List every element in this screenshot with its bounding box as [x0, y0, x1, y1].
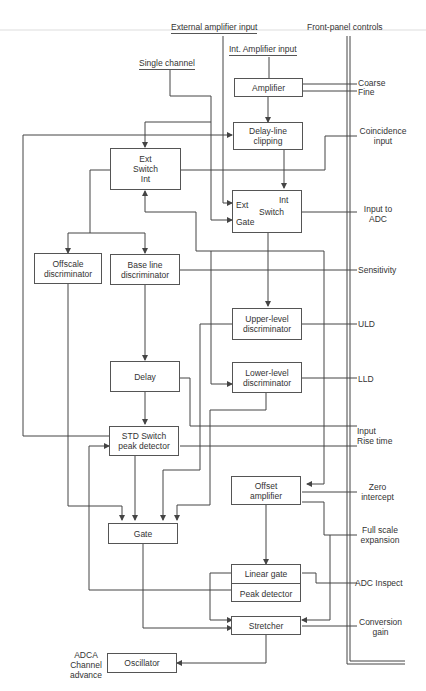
delay-block: Delay — [110, 361, 180, 392]
offset-amplifier-block: Offset amplifier — [231, 476, 301, 505]
baseline-discriminator-block: Base line discriminator — [110, 254, 180, 285]
adca-line1: ADCA — [67, 650, 105, 660]
ext-label: Ext — [139, 154, 151, 164]
delay-line-clipping-block: Delay-line clipping — [233, 122, 303, 150]
uld-discriminator-label: discriminator — [243, 324, 291, 334]
oscillator-label: Oscillator — [124, 658, 159, 668]
gate-block: Gate — [108, 523, 178, 544]
coincidence-line1: Coincidence — [358, 126, 408, 136]
amplifier-label: Amplifier — [252, 83, 285, 93]
linear-gate-label: Linear gate — [245, 569, 288, 579]
switch-ext-input-label: Ext — [236, 200, 248, 210]
linear-gate-peak-detector-block: Linear gate Peak detector — [231, 564, 301, 602]
switch-center-label: Switch — [259, 207, 284, 217]
switch-gate-input-label: Gate — [236, 217, 254, 227]
baseline-discriminator-label: discriminator — [121, 270, 169, 280]
input-to-adc-line2: ADC — [358, 214, 398, 224]
lld-label: LLD — [358, 374, 374, 384]
int-label: Int — [141, 174, 150, 184]
peak-detector-std-label: peak detector — [118, 441, 170, 451]
oscillator-block: Oscillator — [107, 653, 177, 673]
uld-label: ULD — [358, 319, 375, 329]
lower-level-label: Lower-level — [245, 368, 288, 378]
coincidence-line2: input — [358, 136, 408, 146]
input-rise-time-label: Input Rise time — [357, 426, 392, 446]
upper-level-discriminator-block: Upper-level discriminator — [232, 308, 302, 340]
delay-label: Delay — [134, 372, 156, 382]
amplifier-block: Amplifier — [234, 78, 303, 97]
zero-line1: Zero — [355, 482, 400, 492]
stretcher-label: Stretcher — [249, 621, 284, 631]
int-amplifier-input-label: Int. Amplifier input — [229, 44, 297, 56]
upper-level-label: Upper-level — [245, 314, 288, 324]
offscale-discriminator-label: discriminator — [44, 269, 92, 279]
zero-intercept-label: Zero intercept — [355, 482, 400, 502]
single-channel-label: Single channel — [139, 58, 195, 70]
zero-line2: intercept — [355, 492, 400, 502]
offscale-label: Offscale — [52, 259, 83, 269]
coincidence-input-label: Coincidence input — [358, 126, 408, 146]
adca-line3: advance — [67, 670, 105, 680]
std-switch-label: STD Switch — [122, 431, 166, 441]
conversion-line1: Conversion — [353, 617, 408, 627]
full-line2: expansion — [355, 535, 405, 545]
conversion-gain-label: Conversion gain — [353, 617, 408, 637]
int-switch-block: Int Ext Switch Gate — [232, 190, 302, 233]
rise-line1: Input — [357, 426, 392, 436]
block-divider — [232, 583, 300, 584]
lower-level-discriminator-block: Lower-level discriminator — [232, 362, 302, 393]
delay-line-label: Delay-line — [249, 126, 287, 136]
adc-inspect-label: ADC Inspect — [355, 578, 403, 588]
ext-switch-int-block: Ext Switch Int — [110, 148, 181, 190]
conversion-line2: gain — [353, 627, 408, 637]
rise-line2: Rise time — [357, 436, 392, 446]
switch-int-input-label: Int — [279, 195, 288, 205]
external-amplifier-input-label: External amplifier input — [171, 22, 257, 34]
full-line1: Full scale — [355, 525, 405, 535]
adca-line2: Channel — [67, 660, 105, 670]
baseline-label: Base line — [128, 260, 163, 270]
sensitivity-label: Sensitivity — [358, 265, 396, 275]
full-scale-expansion-label: Full scale expansion — [355, 525, 405, 545]
std-switch-peak-detector-block: STD Switch peak detector — [109, 426, 179, 456]
input-to-adc-label: Input to ADC — [358, 204, 398, 224]
fine-label: Fine — [358, 87, 375, 97]
switch-label: Switch — [133, 164, 158, 174]
offset-label: Offset — [255, 481, 278, 491]
peak-detector-label: Peak detector — [240, 589, 292, 599]
clipping-label: clipping — [254, 136, 283, 146]
front-panel-controls-label: Front-panel controls — [307, 22, 383, 32]
gate-label: Gate — [134, 529, 152, 539]
offset-amplifier-label: amplifier — [250, 491, 282, 501]
stretcher-block: Stretcher — [231, 616, 301, 635]
offscale-discriminator-block: Offscale discriminator — [34, 253, 102, 284]
input-to-adc-line1: Input to — [358, 204, 398, 214]
adca-channel-advance-label: ADCA Channel advance — [67, 650, 105, 680]
lld-discriminator-label: discriminator — [243, 378, 291, 388]
